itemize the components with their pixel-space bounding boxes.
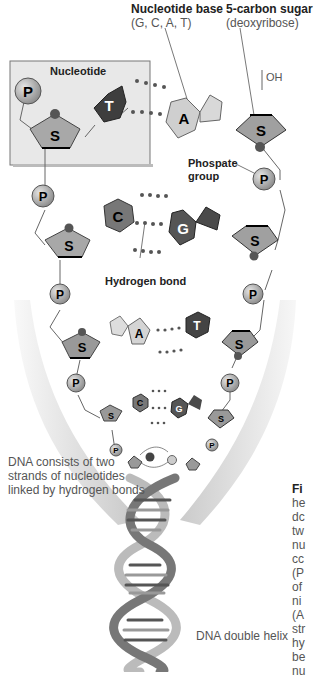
svg-text:S: S — [50, 127, 60, 144]
phosphate-1: P — [15, 78, 41, 104]
sugar-9 — [128, 456, 142, 468]
svg-text:S: S — [64, 238, 73, 254]
svg-text:S: S — [108, 411, 114, 421]
cytosine-1: C — [104, 199, 134, 232]
phosphate-group-label-1: Phospate — [188, 157, 238, 169]
nucleotide-box-label: Nucleotide — [50, 65, 106, 77]
svg-text:P: P — [113, 446, 119, 455]
svg-text:S: S — [218, 414, 224, 424]
nucleotide-base-sublabel: (G, C, A, T) — [131, 16, 191, 30]
svg-text:S: S — [78, 340, 87, 355]
svg-text:A: A — [179, 110, 190, 127]
adenine-2: A — [110, 316, 150, 344]
phosphate-5: P — [243, 284, 263, 304]
svg-text:C: C — [113, 208, 124, 225]
hydrogen-bond-label: Hydrogen bond — [105, 275, 186, 287]
svg-text:C: C — [137, 398, 144, 408]
svg-text:P: P — [39, 189, 48, 204]
svg-text:P: P — [209, 441, 215, 450]
phosphate-6: P — [67, 374, 85, 392]
sugar-5: S — [62, 328, 100, 358]
sugar-7: S — [100, 405, 122, 421]
svg-text:P: P — [56, 288, 64, 302]
phosphate-3: P — [32, 185, 54, 207]
phosphate-4: P — [50, 284, 70, 304]
sugar-6: S — [222, 331, 258, 360]
svg-text:P: P — [249, 288, 257, 302]
adenine-1: A — [166, 95, 222, 138]
thymine-3 — [146, 453, 155, 462]
svg-text:P: P — [260, 172, 269, 187]
svg-text:S: S — [256, 122, 266, 139]
svg-text:P: P — [23, 83, 33, 100]
double-helix-label: DNA double helix — [196, 629, 288, 643]
strands-caption-2: strands of nucleotides — [8, 469, 125, 483]
strands-caption-3: linked by hydrogen bonds — [8, 483, 145, 497]
sugar-2: S — [236, 115, 286, 152]
svg-text:T: T — [104, 97, 113, 114]
sugar-label: 5-carbon sugar — [226, 2, 313, 16]
svg-text:P: P — [72, 377, 79, 389]
phosphate-2: P — [253, 168, 275, 190]
svg-text:A: A — [135, 327, 144, 341]
svg-text:T: T — [193, 319, 201, 333]
phosphate-7: P — [221, 374, 239, 392]
svg-text:P: P — [226, 377, 233, 389]
svg-text:G: G — [175, 404, 182, 414]
sugar-sublabel: (deoxyribose) — [226, 16, 299, 30]
cytosine-2: C — [133, 394, 148, 412]
svg-text:S: S — [235, 337, 244, 352]
sugar-10 — [186, 458, 200, 470]
sugar-4: S — [232, 226, 278, 261]
strands-caption-1: DNA consists of two — [8, 455, 115, 469]
figure-caption: Fi he dc tw nu cc (P of ni (A str hy be … — [292, 482, 312, 678]
thymine-2: T — [186, 312, 210, 338]
guanine-2: G — [171, 395, 202, 418]
sugar-3: S — [45, 224, 90, 258]
sugar-8: S — [208, 410, 234, 428]
oh-label: OH — [266, 71, 283, 83]
phosphate-group-label-2: group — [188, 170, 219, 182]
svg-text:S: S — [250, 233, 259, 249]
svg-text:G: G — [177, 220, 189, 237]
guanine-1: G — [169, 207, 220, 245]
nucleotide-base-label: Nucleotide base — [131, 2, 223, 16]
adenine-3 — [168, 456, 177, 465]
phosphate-9: P — [206, 439, 218, 451]
